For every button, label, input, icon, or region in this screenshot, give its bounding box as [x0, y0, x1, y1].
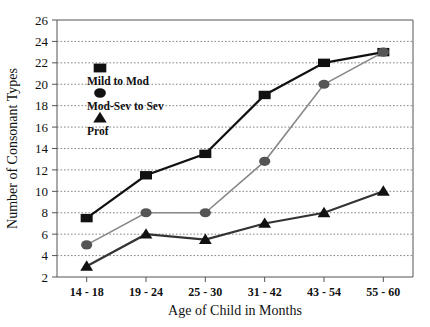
series-prof: [80, 185, 389, 270]
data-point-0: [81, 240, 92, 249]
legend-marker-triangle: [93, 112, 106, 123]
data-point-4: [318, 59, 330, 67]
x-tick-label-3: 31 - 42: [248, 285, 282, 299]
y-tick-label-22: 22: [35, 55, 48, 70]
y-axis-ticks: 2468101214161820222426: [35, 13, 57, 285]
legend-marker-square: [94, 64, 107, 73]
y-tick-label-10: 10: [35, 184, 48, 199]
data-point-1: [140, 228, 153, 238]
data-point-2: [200, 208, 211, 217]
legend-marker-circle: [94, 88, 106, 98]
chart-legend: Mild to ModMod-Sev to SevProf: [87, 64, 164, 137]
y-tick-label-12: 12: [35, 163, 48, 178]
series-line: [87, 191, 384, 266]
y-tick-label-16: 16: [35, 120, 49, 135]
data-point-5: [378, 48, 389, 57]
x-tick-label-4: 43 - 54: [307, 285, 341, 299]
x-tick-label-0: 14 - 18: [70, 285, 104, 299]
x-tick-label-1: 19 - 24: [129, 285, 163, 299]
data-point-5: [377, 185, 390, 195]
data-point-4: [318, 80, 329, 89]
data-point-0: [80, 260, 93, 270]
data-point-1: [140, 171, 152, 179]
y-tick-label-2: 2: [42, 270, 49, 285]
y-tick-label-6: 6: [42, 227, 49, 242]
y-tick-label-24: 24: [35, 34, 49, 49]
y-axis-title: Number of Consonant Types: [5, 68, 20, 229]
y-tick-label-20: 20: [35, 77, 48, 92]
data-point-2: [199, 150, 211, 158]
data-point-3: [259, 91, 271, 99]
y-tick-label-26: 26: [35, 13, 49, 28]
x-axis-ticks: 14 - 1819 - 2425 - 3031 - 4243 - 5455 - …: [70, 277, 401, 299]
chart-figure: 246810121416182022242614 - 1819 - 2425 -…: [0, 0, 430, 327]
x-tick-label-2: 25 - 30: [188, 285, 222, 299]
data-point-1: [140, 208, 151, 217]
data-point-3: [259, 157, 270, 166]
y-tick-label-4: 4: [42, 248, 49, 263]
legend-label-2: Prof: [87, 125, 109, 137]
y-tick-label-8: 8: [42, 205, 49, 220]
y-tick-label-14: 14: [35, 141, 49, 156]
x-axis-title: Age of Child in Months: [168, 303, 302, 318]
data-point-0: [81, 214, 93, 222]
line-chart: 246810121416182022242614 - 1819 - 2425 -…: [0, 0, 430, 327]
y-tick-label-18: 18: [35, 98, 48, 113]
legend-label-0: Mild to Mod: [87, 75, 150, 87]
legend-label-1: Mod-Sev to Sev: [87, 100, 164, 112]
x-tick-label-5: 55 - 60: [366, 285, 400, 299]
